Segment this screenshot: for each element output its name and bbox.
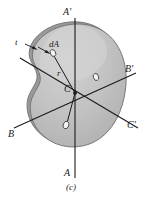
figure-container: A' A B B' C' C dA r t (c) — [0, 0, 150, 197]
figure-caption: (c) — [66, 183, 76, 192]
differential-area-label: dA — [49, 40, 59, 49]
axis-label-a-prime: A' — [63, 7, 71, 17]
cross-section-diagram — [0, 0, 150, 197]
axis-label-b: B — [8, 129, 14, 139]
axis-label-b-prime: B' — [125, 64, 133, 74]
centroid-label-c: C — [64, 84, 71, 94]
axis-label-a: A — [64, 168, 70, 178]
centroid-point — [73, 91, 77, 95]
thickness-label: t — [15, 38, 18, 47]
axis-label-c-prime: C' — [127, 120, 136, 130]
radius-label: r — [57, 69, 61, 78]
